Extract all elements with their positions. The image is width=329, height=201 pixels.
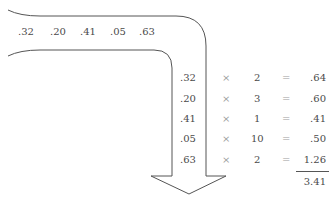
times-operator: × bbox=[222, 154, 230, 166]
row-value: .20 bbox=[180, 93, 196, 105]
row-weight: 2 bbox=[254, 154, 260, 166]
sum-rule bbox=[296, 171, 329, 172]
sequence-value: .32 bbox=[18, 26, 34, 38]
row-weight: 1 bbox=[254, 113, 260, 125]
times-operator: × bbox=[222, 72, 230, 84]
row-product: 1.26 bbox=[300, 154, 326, 166]
row-product: .60 bbox=[300, 93, 326, 105]
row-product: .50 bbox=[300, 133, 326, 145]
times-operator: × bbox=[222, 93, 230, 105]
equals-operator: = bbox=[282, 113, 290, 125]
total: 3.41 bbox=[300, 176, 326, 188]
row-product: .41 bbox=[300, 113, 326, 125]
row-value: .41 bbox=[180, 113, 196, 125]
row-value: .32 bbox=[180, 72, 196, 84]
row-weight: 10 bbox=[251, 133, 264, 145]
row-value: .63 bbox=[180, 154, 196, 166]
sequence-value: .05 bbox=[110, 26, 126, 38]
row-weight: 3 bbox=[254, 93, 260, 105]
equals-operator: = bbox=[282, 72, 290, 84]
equals-operator: = bbox=[282, 154, 290, 166]
row-product: .64 bbox=[300, 72, 326, 84]
equals-operator: = bbox=[282, 93, 290, 105]
sequence-value: .41 bbox=[80, 26, 96, 38]
times-operator: × bbox=[222, 133, 230, 145]
times-operator: × bbox=[222, 113, 230, 125]
sequence-value: .63 bbox=[139, 26, 155, 38]
sequence-value: .20 bbox=[50, 26, 66, 38]
row-value: .05 bbox=[180, 133, 196, 145]
equals-operator: = bbox=[282, 133, 290, 145]
row-weight: 2 bbox=[254, 72, 260, 84]
